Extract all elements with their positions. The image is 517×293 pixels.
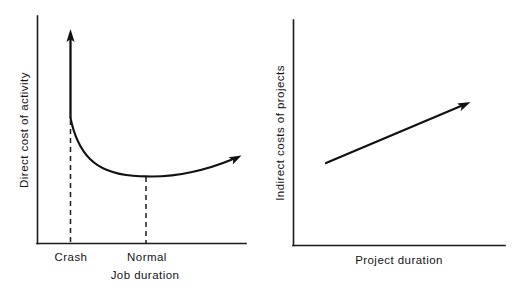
tick-label-normal: Normal (127, 251, 167, 263)
tick-label-crash: Crash (55, 251, 88, 263)
left-y-axis-label: Direct cost of activity (18, 72, 30, 188)
chart-indirect-cost: Indirect costs of projects Project durat… (274, 20, 505, 266)
direct-cost-curve (71, 118, 233, 176)
figure-canvas: Direct cost of activity Crash Normal Job… (0, 0, 517, 293)
chart-direct-cost: Direct cost of activity Crash Normal Job… (18, 16, 246, 281)
right-x-axis-label: Project duration (355, 254, 443, 266)
figure-container: Direct cost of activity Crash Normal Job… (0, 0, 517, 293)
right-y-axis-label: Indirect costs of projects (274, 65, 286, 201)
indirect-cost-trend-line (326, 106, 461, 163)
left-x-axis-label: Job duration (111, 269, 180, 281)
